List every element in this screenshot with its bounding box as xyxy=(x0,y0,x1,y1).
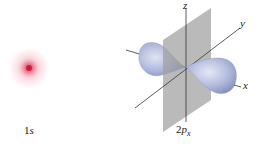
x-axis-front xyxy=(234,85,241,87)
y-axis-label: y xyxy=(240,18,245,29)
orbital-1s-cloud xyxy=(7,46,51,90)
z-axis-label: z xyxy=(183,0,187,11)
x-axis-label: x xyxy=(243,80,248,91)
orbital-1s-label: 1s xyxy=(24,125,34,136)
orbital-diagram xyxy=(0,0,260,148)
orbital-2px-label: 2px xyxy=(176,124,191,138)
